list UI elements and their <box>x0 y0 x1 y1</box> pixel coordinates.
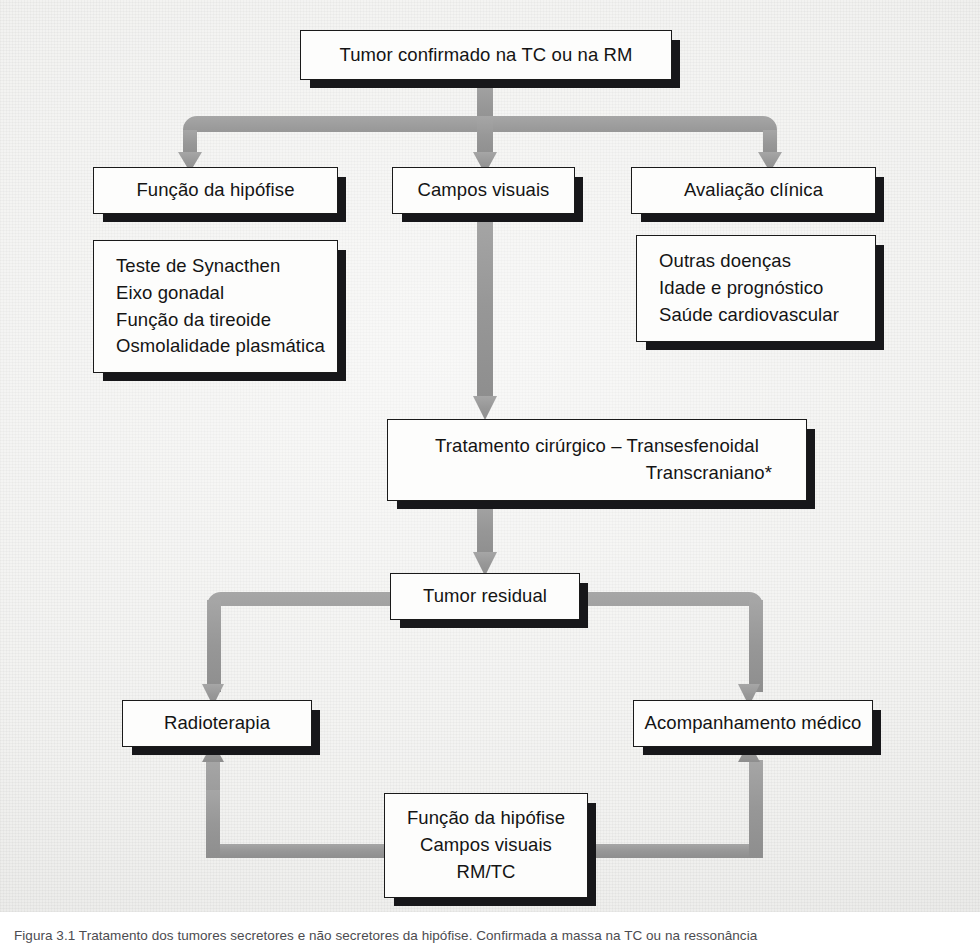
node-clinical-evaluation[interactable]: Avaliação clínica <box>631 167 876 214</box>
node-pituitary-function[interactable]: Função da hipófise <box>93 167 338 214</box>
pituitary-test-line-2: Eixo gonadal <box>116 280 337 307</box>
pituitary-test-line-1: Teste de Synacthen <box>116 253 337 280</box>
figure-caption-text: Figura 3.1 Tratamento dos tumores secret… <box>14 928 966 943</box>
node-medical-followup-label: Acompanhamento médico <box>634 710 872 737</box>
node-visual-fields[interactable]: Campos visuais <box>392 167 575 214</box>
node-pituitary-tests[interactable]: Teste de Synacthen Eixo gonadal Função d… <box>93 240 338 373</box>
connector-surgery-to-residual <box>473 500 497 576</box>
node-followup-monitoring-lines: Função da hipófise Campos visuais RM/TC <box>385 805 587 885</box>
clinical-factor-line-2: Idade e prognóstico <box>659 275 875 302</box>
node-surgical-treatment[interactable]: Tratamento cirúrgico – Transesfenoidal T… <box>387 419 807 501</box>
node-clinical-factors-lines: Outras doenças Idade e prognóstico Saúde… <box>637 248 875 328</box>
node-clinical-factors[interactable]: Outras doenças Idade e prognóstico Saúde… <box>636 235 876 342</box>
node-radiotherapy-label: Radioterapia <box>123 710 311 737</box>
pituitary-test-line-4: Osmolalidade plasmática <box>116 333 337 360</box>
clinical-factor-line-3: Saúde cardiovascular <box>659 302 875 329</box>
node-clinical-evaluation-label: Avaliação clínica <box>632 177 875 204</box>
node-residual-tumor-label: Tumor residual <box>391 583 579 610</box>
connector-residual-to-followup <box>580 592 763 706</box>
node-visual-fields-label: Campos visuais <box>393 177 574 204</box>
node-tumor-confirmed[interactable]: Tumor confirmado na TC ou na RM <box>300 30 672 80</box>
followup-monitoring-line-3: RM/TC <box>385 859 587 886</box>
pituitary-test-line-3: Função da tireoide <box>116 307 337 334</box>
connector-monitoring-to-radiotherapy <box>202 742 390 858</box>
connector-residual-to-radiotherapy <box>202 592 390 706</box>
connector-root-to-bus <box>178 78 782 174</box>
surgical-treatment-line-2: Transcraniano* <box>388 460 806 487</box>
followup-monitoring-line-2: Campos visuais <box>385 832 587 859</box>
node-tumor-confirmed-label: Tumor confirmado na TC ou na RM <box>301 42 671 69</box>
surgical-treatment-line-1: Tratamento cirúrgico – Transesfenoidal <box>388 433 806 460</box>
followup-monitoring-line-1: Função da hipófise <box>385 805 587 832</box>
connector-monitoring-to-followup <box>588 742 763 858</box>
figure-caption: Figura 3.1 Tratamento dos tumores secret… <box>0 912 980 946</box>
node-residual-tumor[interactable]: Tumor residual <box>390 573 580 620</box>
connector-visualfields-to-surgery <box>473 212 497 420</box>
node-radiotherapy[interactable]: Radioterapia <box>122 700 312 747</box>
node-followup-monitoring[interactable]: Função da hipófise Campos visuais RM/TC <box>384 793 588 898</box>
figure-page: Tumor confirmado na TC ou na RM Função d… <box>0 0 980 946</box>
node-medical-followup[interactable]: Acompanhamento médico <box>633 700 873 747</box>
clinical-factor-line-1: Outras doenças <box>659 248 875 275</box>
node-pituitary-function-label: Função da hipófise <box>94 177 337 204</box>
node-surgical-treatment-lines: Tratamento cirúrgico – Transesfenoidal T… <box>388 433 806 487</box>
node-pituitary-tests-lines: Teste de Synacthen Eixo gonadal Função d… <box>94 253 337 360</box>
